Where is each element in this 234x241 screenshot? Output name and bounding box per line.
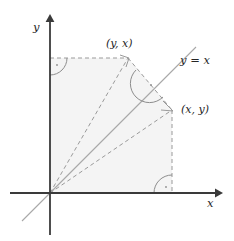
point-label-reflected: (y, x) bbox=[106, 38, 133, 49]
shaded-region bbox=[50, 58, 172, 193]
right-angle-dot-top-left bbox=[56, 64, 58, 66]
x-axis-label: x bbox=[207, 198, 214, 210]
right-angle-dot-center bbox=[150, 84, 152, 86]
point-label-original: (x, y) bbox=[181, 104, 209, 115]
right-angle-dot-bottom-right bbox=[165, 186, 167, 188]
line-label-y-equals-x: y = x bbox=[180, 55, 210, 67]
y-axis-arrowhead-icon bbox=[46, 14, 55, 22]
geometry-figure: y x (y, x) (x, y) y = x bbox=[0, 0, 234, 241]
x-axis-arrowhead-icon bbox=[215, 189, 223, 198]
y-axis-label: y bbox=[33, 22, 40, 34]
